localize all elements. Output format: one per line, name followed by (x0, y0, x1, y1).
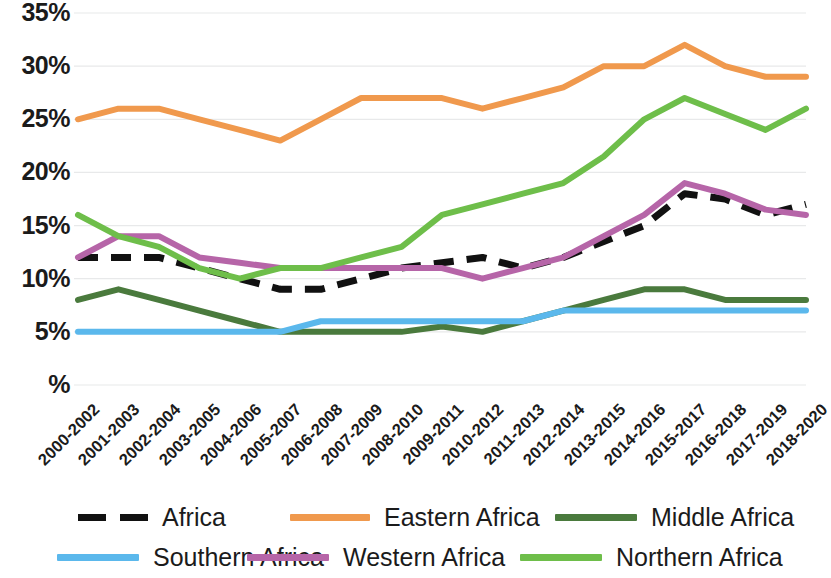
legend-swatch-icon (247, 554, 329, 561)
legend-item-africa[interactable]: Africa (78, 498, 226, 538)
legend-item-northern-africa[interactable]: Northern Africa (520, 538, 783, 578)
legend-swatch-icon (555, 514, 637, 521)
legend-label: Western Africa (343, 545, 505, 570)
legend-swatch-icon (520, 554, 602, 561)
legend-row: Southern AfricaWestern AfricaNorthern Af… (0, 538, 816, 578)
legend-label: Africa (162, 505, 226, 530)
legend-label: Middle Africa (651, 505, 794, 530)
legend-item-western-africa[interactable]: Western Africa (247, 538, 505, 578)
legend-row: AfricaEastern AfricaMiddle Africa (0, 498, 816, 538)
legend-label: Eastern Africa (384, 505, 540, 530)
legend-item-eastern-africa[interactable]: Eastern Africa (290, 498, 540, 538)
chart-legend: AfricaEastern AfricaMiddle AfricaSouther… (0, 497, 816, 578)
legend-swatch-dashed-icon (78, 514, 148, 521)
legend-label: Northern Africa (616, 545, 783, 570)
legend-swatch-icon (57, 554, 139, 561)
legend-swatch-icon (290, 514, 370, 521)
x-axis-ticks: 2000-20022001-20032002-20042003-20052004… (0, 0, 816, 500)
legend-item-middle-africa[interactable]: Middle Africa (555, 498, 794, 538)
